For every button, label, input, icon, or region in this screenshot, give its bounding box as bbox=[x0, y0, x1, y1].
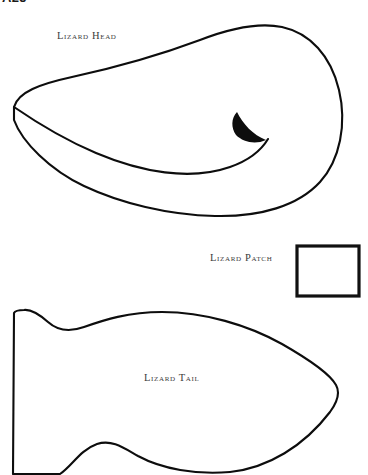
lizard-tail-label: Lizard Tail bbox=[144, 373, 199, 384]
lizard-head-piece bbox=[14, 25, 342, 216]
pattern-sheet: A25 Lizard Head Lizard Patch Lizard Tail bbox=[0, 0, 368, 475]
lizard-head-outline bbox=[14, 25, 342, 216]
lizard-patch-rectangle bbox=[297, 246, 359, 296]
lizard-tail-piece bbox=[13, 310, 338, 474]
pattern-pieces-artwork bbox=[0, 0, 368, 475]
lizard-tail-outline bbox=[13, 310, 338, 474]
lizard-head-label: Lizard Head bbox=[57, 31, 117, 42]
lizard-patch-piece bbox=[297, 246, 359, 296]
lizard-patch-label: Lizard Patch bbox=[210, 253, 272, 264]
